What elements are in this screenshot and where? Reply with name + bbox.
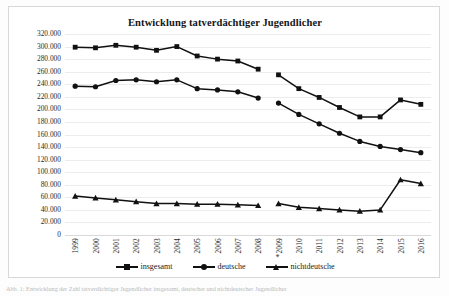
- y-axis-tick-label: 140.000: [9, 143, 61, 151]
- circle-marker-icon: [195, 86, 200, 91]
- y-axis-tick-label: 100.000: [9, 168, 61, 176]
- legend-marker: [273, 264, 279, 270]
- square-marker-icon: [113, 43, 118, 48]
- circle-marker-icon: [256, 95, 261, 100]
- x-axis-tick-label: 2000: [92, 238, 101, 254]
- square-marker-icon: [93, 45, 98, 50]
- circle-marker-icon: [337, 131, 342, 136]
- circle-marker-icon: [93, 84, 98, 89]
- legend-item-insgesamt[interactable]: insgesamt: [116, 262, 173, 271]
- circle-marker-icon: [113, 78, 118, 83]
- square-marker-icon: [154, 48, 159, 53]
- square-marker-icon: [357, 115, 362, 120]
- circle-marker-icon: [296, 112, 301, 117]
- circle-marker-icon: [357, 139, 362, 144]
- y-axis-tick-label: 60.000: [9, 193, 61, 201]
- y-axis-tick-label: 160.000: [9, 131, 61, 139]
- series-line-insgesamt: [75, 45, 258, 69]
- circle-marker-icon: [73, 84, 78, 89]
- square-marker-icon: [174, 44, 179, 49]
- y-axis-tick-label: 280.000: [9, 55, 61, 63]
- square-marker-icon: [378, 115, 383, 120]
- x-axis-tick-label: 2006: [214, 238, 223, 254]
- x-axis-tick-label: 2001: [112, 238, 121, 254]
- legend-marker: [201, 264, 207, 270]
- figure-caption: Abb. 1: Entwicklung der Zahl tatverdächt…: [6, 285, 446, 292]
- circle-marker-icon: [276, 100, 281, 105]
- legend-item-deutsche[interactable]: deutsche: [193, 262, 246, 271]
- plot-area: [65, 34, 431, 235]
- square-marker-icon: [235, 59, 240, 64]
- square-marker-icon: [296, 86, 301, 91]
- circle-marker-icon: [215, 87, 220, 92]
- y-axis-tick-label: 20.000: [9, 218, 61, 226]
- chart-title: Entwicklung tatverdächtiger Jugendlicher: [9, 17, 441, 28]
- square-marker-icon: [337, 105, 342, 110]
- x-axis-tick-label: 2015: [397, 238, 406, 254]
- chart-frame: Entwicklung tatverdächtiger Jugendlicher…: [8, 6, 440, 278]
- x-axis-tick-label: 2014: [376, 238, 385, 254]
- square-marker-icon: [73, 45, 78, 50]
- chart-legend: insgesamtdeutschenichtdeutsche: [9, 262, 441, 271]
- series-line-insgesamt: [279, 75, 421, 117]
- circle-marker-icon: [174, 77, 179, 82]
- circle-marker-icon: [134, 77, 139, 82]
- legend-label: nichtdeutsche: [291, 262, 335, 271]
- y-axis-tick-label: 80.000: [9, 181, 61, 189]
- series-line-deutsche: [75, 80, 258, 98]
- square-marker-icon: [195, 54, 200, 59]
- circle-marker-icon: [378, 144, 383, 149]
- x-axis-tick-label: 2010: [295, 238, 304, 254]
- circle-marker-icon: [317, 121, 322, 126]
- square-marker-icon: [276, 72, 281, 77]
- square-marker-icon: [116, 262, 138, 271]
- square-marker-icon: [317, 95, 322, 100]
- x-axis-tick-label: 2005: [193, 238, 202, 254]
- x-axis-tick-label: 2012: [336, 238, 345, 254]
- legend-label: deutsche: [218, 262, 246, 271]
- y-axis-tick-label: 300.000: [9, 43, 61, 51]
- y-axis-tick-label: 0: [9, 231, 61, 239]
- y-axis-tick-label: 120.000: [9, 156, 61, 164]
- square-marker-icon: [134, 45, 139, 50]
- square-marker-icon: [398, 98, 403, 103]
- triangle-marker-icon: [266, 262, 288, 271]
- y-axis-tick-labels: 320.000300.000280.000260.000240.000220.0…: [9, 34, 61, 235]
- x-axis-tick-label: 2004: [173, 238, 182, 254]
- y-axis-tick-label: 200.000: [9, 105, 61, 113]
- x-axis-tick-label: 2007: [234, 238, 243, 254]
- y-axis-tick-label: 260.000: [9, 68, 61, 76]
- y-axis-tick-label: 180.000: [9, 118, 61, 126]
- square-marker-icon: [418, 102, 423, 107]
- x-axis-tick-labels: 1999200020012002200320042005200620072008…: [65, 238, 431, 278]
- circle-marker-icon: [193, 262, 215, 271]
- circle-marker-icon: [418, 150, 423, 155]
- x-axis-tick-label: 2013: [356, 238, 365, 254]
- y-axis-tick-label: 240.000: [9, 80, 61, 88]
- series-layer: [65, 34, 431, 235]
- series-line-deutsche: [279, 103, 421, 153]
- circle-marker-icon: [154, 79, 159, 84]
- figure-container: Entwicklung tatverdächtiger Jugendlicher…: [0, 0, 449, 296]
- x-axis-tick-label: 2011: [315, 238, 324, 253]
- series-line-nichtdeutsche: [75, 196, 258, 205]
- circle-marker-icon: [235, 89, 240, 94]
- x-axis-tick-label: 2008: [254, 238, 263, 254]
- x-axis-tick-label: *2009: [275, 238, 284, 257]
- x-axis-tick-label: 2002: [132, 238, 141, 254]
- y-axis-tick-label: 40.000: [9, 206, 61, 214]
- x-axis-tick-label: 2003: [153, 238, 162, 254]
- square-marker-icon: [215, 57, 220, 62]
- legend-item-nichtdeutsche[interactable]: nichtdeutsche: [266, 262, 335, 271]
- legend-label: insgesamt: [141, 262, 173, 271]
- square-marker-icon: [256, 67, 261, 72]
- y-axis-tick-label: 220.000: [9, 93, 61, 101]
- x-axis-tick-label: 1999: [71, 238, 80, 254]
- circle-marker-icon: [398, 147, 403, 152]
- gridline: [65, 235, 431, 236]
- legend-marker: [124, 264, 130, 270]
- y-axis-tick-label: 320.000: [9, 30, 61, 38]
- x-axis-tick-label: 2016: [417, 238, 426, 254]
